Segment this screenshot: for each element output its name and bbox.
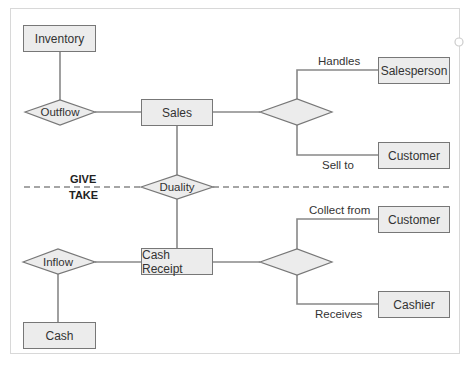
entity-salesperson[interactable]: Salesperson (378, 57, 450, 84)
relationship-outflow[interactable]: Outflow (41, 106, 80, 118)
sales-participation-diamond (260, 99, 332, 125)
edge-label-receives: Receives (315, 308, 362, 320)
entity-cash-receipt[interactable]: Cash Receipt (141, 248, 213, 275)
edge-label-handles: Handles (318, 55, 360, 67)
entity-customer-receipt[interactable]: Customer (378, 206, 450, 233)
receipt-participation-diamond (260, 249, 332, 275)
entity-cashier[interactable]: Cashier (378, 291, 450, 318)
entity-customer-sales[interactable]: Customer (378, 142, 450, 169)
edge-label-sell-to: Sell to (322, 159, 354, 171)
edge-label-collect-from: Collect from (309, 204, 370, 216)
entity-cash[interactable]: Cash (23, 322, 96, 349)
relationship-duality[interactable]: Duality (159, 181, 194, 193)
give-label: GIVE (70, 173, 96, 185)
entity-sales[interactable]: Sales (141, 99, 213, 126)
take-label: TAKE (69, 189, 98, 201)
relationship-inflow[interactable]: Inflow (43, 256, 73, 268)
entity-inventory[interactable]: Inventory (23, 25, 96, 52)
